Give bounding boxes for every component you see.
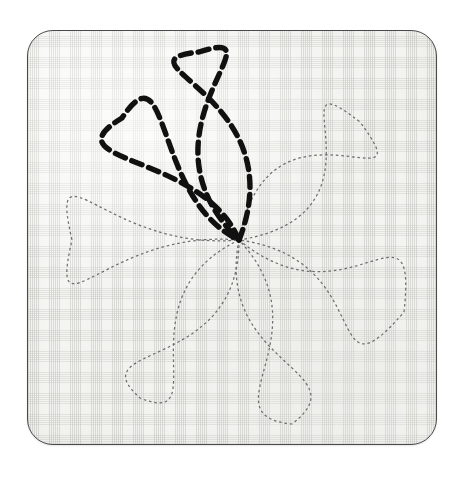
fabric-sheen-overlay [28, 31, 436, 444]
fabric-swatch [27, 30, 437, 445]
image-canvas [0, 0, 467, 483]
